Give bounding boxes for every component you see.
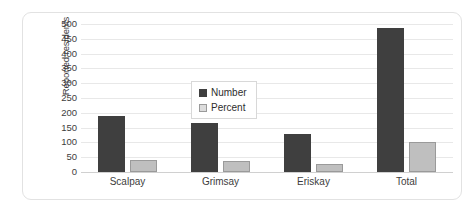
legend-item-percent[interactable]: Percent: [199, 102, 247, 113]
legend-label: Number: [211, 87, 247, 98]
x-axis-category-labels: ScalpayGrimsayEriskayTotal: [81, 176, 453, 187]
bar-scalpay-number[interactable]: [98, 116, 125, 172]
legend-label: Percent: [211, 102, 245, 113]
bar-scalpay-percent[interactable]: [130, 160, 157, 172]
plot-area: NumberPercent: [81, 24, 453, 172]
x-axis-label-eriskay: Eriskay: [267, 176, 360, 187]
bar-group-eriskay: [267, 24, 360, 172]
y-axis-tick-label: 100: [39, 137, 77, 147]
bar-total-percent[interactable]: [409, 142, 436, 172]
y-axis-tick-label: 150: [39, 123, 77, 133]
x-axis-label-grimsay: Grimsay: [174, 176, 267, 187]
bar-eriskay-percent[interactable]: [316, 164, 343, 172]
x-axis-label-total: Total: [360, 176, 453, 187]
y-axis-tick-label: 300: [39, 78, 77, 88]
y-axis-tick-label: 350: [39, 63, 77, 73]
x-axis-label-scalpay: Scalpay: [81, 176, 174, 187]
y-axis-tick-labels: 050100150200250300350400450500: [39, 24, 77, 172]
bar-grimsay-percent[interactable]: [223, 161, 250, 172]
y-axis-tick-label: 400: [39, 49, 77, 59]
y-axis-tick-label: 50: [39, 152, 77, 162]
bar-grimsay-number[interactable]: [191, 123, 218, 172]
bar-total-number[interactable]: [377, 28, 404, 172]
bar-group-scalpay: [81, 24, 174, 172]
gridline: [81, 172, 453, 173]
y-axis-tick-label: 250: [39, 93, 77, 103]
dark-square-swatch: [199, 89, 207, 97]
bar-groups: [81, 24, 453, 172]
y-axis-tick-label: 200: [39, 108, 77, 118]
chart-card: Reported residents 050100150200250300350…: [22, 12, 462, 200]
bar-eriskay-number[interactable]: [284, 134, 311, 172]
chart-legend: NumberPercent: [191, 81, 257, 119]
bar-group-total: [360, 24, 453, 172]
y-axis-tick-label: 450: [39, 34, 77, 44]
y-axis-tick-label: 500: [39, 19, 77, 29]
light-square-swatch: [199, 104, 207, 112]
legend-item-number[interactable]: Number: [199, 87, 247, 98]
y-axis-tick-label: 0: [39, 167, 77, 177]
